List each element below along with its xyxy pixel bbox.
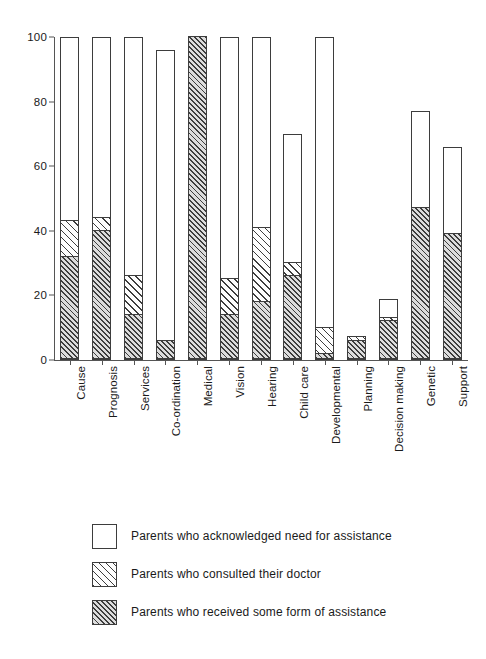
bar-group[interactable] — [347, 37, 366, 360]
bar-segment-received-assistance[interactable] — [379, 320, 398, 359]
bar-group[interactable] — [411, 37, 430, 360]
bar-group[interactable] — [443, 37, 462, 360]
x-tick-mark — [197, 360, 198, 365]
bar-segment-acknowledged-need[interactable] — [379, 299, 398, 360]
bar-segment-received-assistance[interactable] — [124, 314, 143, 359]
bar-segment-acknowledged-need[interactable] — [92, 37, 111, 360]
bar-segment-acknowledged-need[interactable] — [124, 37, 143, 360]
x-axis-label-developmental: Developmental — [330, 366, 342, 444]
bar-segment-acknowledged-need[interactable] — [347, 337, 366, 360]
x-axis-label-child-care: Child care — [298, 366, 310, 419]
x-axis-label-prognosis: Prognosis — [107, 366, 119, 418]
bar-group[interactable] — [315, 37, 334, 360]
x-axis-label-vision: Vision — [234, 366, 246, 398]
legend-item[interactable]: Parents who acknowledged need for assist… — [92, 522, 462, 560]
bar-segment-acknowledged-need[interactable] — [283, 134, 302, 360]
x-tick-mark — [261, 360, 262, 365]
x-tick-mark — [165, 360, 166, 365]
bar-group[interactable] — [156, 37, 175, 360]
legend-label: Parents who received some form of assist… — [131, 605, 386, 619]
x-axis-label-co-ordination: Co-ordination — [170, 366, 182, 436]
bar-segment-received-assistance[interactable] — [347, 340, 366, 359]
x-axis-label-medical: Medical — [202, 366, 214, 406]
bar-segment-received-assistance[interactable] — [156, 340, 175, 359]
bar-segment-received-assistance[interactable] — [252, 301, 271, 359]
bar-group[interactable] — [124, 37, 143, 360]
bar-group[interactable] — [379, 37, 398, 360]
x-axis-label-cause: Cause — [75, 366, 87, 400]
bar-group[interactable] — [220, 37, 239, 360]
x-tick-mark — [70, 360, 71, 365]
bar-segment-received-assistance[interactable] — [443, 233, 462, 359]
light-hatch-square-swatch — [92, 562, 117, 587]
bar-segment-received-assistance[interactable] — [92, 230, 111, 359]
x-tick-mark — [229, 360, 230, 365]
x-axis-label-genetic: Genetic — [425, 366, 437, 406]
x-tick-mark — [452, 360, 453, 365]
dense-hatch-square-swatch — [92, 600, 117, 625]
bar-segment-received-assistance[interactable] — [411, 207, 430, 359]
stacked-bar-chart: 020406080100 CausePrognosisServicesCo-or… — [0, 0, 486, 659]
bar-group[interactable] — [283, 37, 302, 360]
bar-segment-received-assistance[interactable] — [220, 314, 239, 359]
x-axis-label-services: Services — [139, 366, 151, 411]
bar-segment-acknowledged-need[interactable] — [252, 37, 271, 360]
x-axis-label-decision-making: Decision making — [393, 366, 405, 452]
x-tick-mark — [357, 360, 358, 365]
bar-group[interactable] — [252, 37, 271, 360]
bar-group[interactable] — [60, 37, 79, 360]
x-axis-label-planning: Planning — [362, 366, 374, 412]
x-tick-mark — [388, 360, 389, 365]
bar-group[interactable] — [188, 37, 207, 360]
bar-group[interactable] — [92, 37, 111, 360]
bar-segment-acknowledged-need[interactable] — [411, 111, 430, 360]
x-tick-mark — [325, 360, 326, 365]
bar-segment-received-assistance[interactable] — [283, 275, 302, 359]
bar-segment-received-assistance[interactable] — [315, 353, 334, 359]
x-tick-mark — [102, 360, 103, 365]
legend-label: Parents who acknowledged need for assist… — [131, 529, 392, 543]
chart-legend: Parents who acknowledged need for assist… — [92, 522, 462, 636]
bar-segment-acknowledged-need[interactable] — [443, 147, 462, 360]
x-axis-label-hearing: Hearing — [266, 366, 278, 407]
bar-segment-acknowledged-need[interactable] — [188, 37, 207, 360]
bar-segment-received-assistance[interactable] — [188, 36, 207, 359]
x-axis-label-support: Support — [457, 366, 469, 407]
x-tick-mark — [293, 360, 294, 365]
x-tick-mark — [134, 360, 135, 365]
bar-segment-received-assistance[interactable] — [60, 256, 79, 359]
x-tick-mark — [420, 360, 421, 365]
legend-item[interactable]: Parents who consulted their doctor — [92, 560, 462, 598]
legend-item[interactable]: Parents who received some form of assist… — [92, 598, 462, 636]
legend-label: Parents who consulted their doctor — [131, 567, 321, 581]
bar-segment-acknowledged-need[interactable] — [220, 37, 239, 360]
bar-segment-acknowledged-need[interactable] — [156, 50, 175, 360]
bar-segment-acknowledged-need[interactable] — [315, 37, 334, 360]
open-square-swatch — [92, 524, 117, 549]
bar-series-group — [54, 37, 468, 360]
bar-segment-acknowledged-need[interactable] — [60, 37, 79, 360]
plot-area: 020406080100 — [54, 37, 468, 360]
